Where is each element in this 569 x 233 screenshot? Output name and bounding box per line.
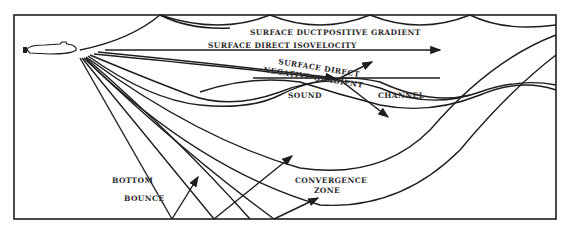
label-surface-duct: SURFACE DUCT [250,28,323,37]
label-surface-direct-isovelocity: SURFACE DIRECT ISOVELOCITY [208,41,357,50]
label-zone: ZONE [314,186,340,195]
label-bounce: BOUNCE [124,194,165,203]
label-positive-gradient: POSITIVE GRADIENT [323,28,421,37]
bottom-bounce-ray-3-up [274,198,318,219]
submarine-icon [23,42,76,54]
label-channel: CHANNEL [378,91,425,100]
label-bottom: BOTTOM [112,176,153,185]
sound-propagation-diagram: SURFACE DUCT POSITIVE GRADIENT SURFACE D… [0,0,569,233]
surface-duct-ray-2 [160,15,230,28]
label-sound: SOUND [288,91,322,100]
label-convergence: CONVERGENCE [295,176,367,185]
convergence-ray-1 [86,35,556,170]
